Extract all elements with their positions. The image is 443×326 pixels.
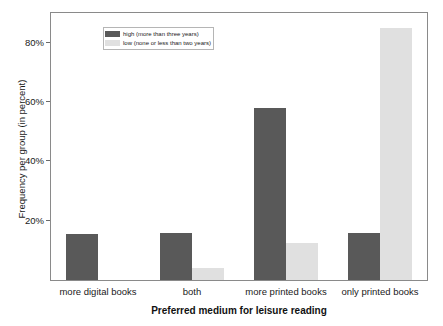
bar-high-more-digital-books	[66, 234, 98, 280]
bar-high-more-printed-books	[254, 108, 286, 280]
legend-item-low: low (none or less than two years)	[105, 39, 211, 47]
bar-high-both	[160, 233, 192, 280]
legend: high (more than three years) low (none o…	[103, 27, 214, 50]
x-tick-label-only-printed-books: only printed books	[304, 285, 443, 299]
plot-area: high (more than three years) low (none o…	[50, 12, 428, 281]
x-axis-title: Preferred medium for leisure reading	[50, 303, 428, 318]
legend-swatch-low-icon	[105, 40, 120, 46]
bar-low-more-printed-books	[286, 243, 318, 280]
bar-high-only-printed-books	[348, 233, 380, 281]
legend-item-high: high (more than three years)	[105, 30, 211, 38]
legend-swatch-high-icon	[105, 31, 120, 37]
bar-low-only-printed-books	[380, 28, 412, 280]
legend-label-low: low (none or less than two years)	[123, 39, 211, 47]
y-axis-title: Frequency per group (in percent)	[14, 14, 30, 284]
legend-label-high: high (more than three years)	[123, 30, 199, 38]
bar-low-both	[192, 268, 224, 280]
bar-chart-figure: Frequency per group (in percent) 20% 40%…	[0, 0, 443, 326]
